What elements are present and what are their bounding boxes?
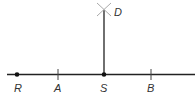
label-s: S	[100, 82, 108, 94]
perpendicular-construction-diagram: D R A S B	[0, 0, 195, 95]
label-a: A	[53, 82, 61, 94]
label-r: R	[14, 82, 22, 94]
point-r-dot	[15, 72, 20, 77]
point-s-dot	[102, 72, 107, 77]
label-d: D	[114, 6, 122, 18]
label-b: B	[147, 82, 154, 94]
